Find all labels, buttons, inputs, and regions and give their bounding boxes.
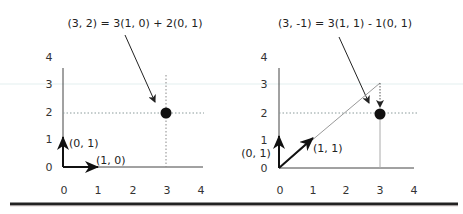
right-y-tick-4: 4 <box>261 51 268 64</box>
left-point-3-2 <box>161 108 172 119</box>
left-vector-0-1-label: (0, 1) <box>69 137 99 150</box>
left-y-tick-0: 0 <box>46 161 53 174</box>
right-annotation-arrow <box>339 37 369 103</box>
right-y-tick-1: 1 <box>261 134 268 147</box>
left-y-tick-1: 1 <box>46 133 53 146</box>
bottom-rule <box>10 203 458 206</box>
left-x-tick-3: 3 <box>164 184 171 197</box>
right-y-tick-3: 3 <box>261 78 268 91</box>
right-x-tick-4: 4 <box>411 184 418 197</box>
diagram: (3, 2) = 3(1, 0) + 2(0, 1) 0 1 2 3 4 0 1… <box>0 0 463 214</box>
left-x-tick-4: 4 <box>198 184 205 197</box>
right-vector-0-1-label: (0, 1) <box>241 147 271 160</box>
right-panel-title: (3, -1) = 3(1, 1) - 1(0, 1) <box>278 17 412 30</box>
right-vector-1-1-label: (1, 1) <box>313 142 343 155</box>
right-x-tick-0: 0 <box>277 184 284 197</box>
left-panel: (3, 2) = 3(1, 0) + 2(0, 1) 0 1 2 3 4 0 1… <box>46 17 205 197</box>
right-vector-1-1 <box>279 138 313 168</box>
left-x-tick-2: 2 <box>130 184 137 197</box>
left-y-tick-4: 4 <box>46 51 53 64</box>
left-x-tick-1: 1 <box>95 184 102 197</box>
left-y-tick-2: 2 <box>46 106 53 119</box>
left-y-tick-3: 3 <box>46 78 53 91</box>
right-point <box>375 109 386 120</box>
right-y-tick-2: 2 <box>261 107 268 120</box>
right-x-tick-3: 3 <box>377 184 384 197</box>
right-y-tick-0: 0 <box>261 162 268 175</box>
left-panel-title: (3, 2) = 3(1, 0) + 2(0, 1) <box>67 17 202 30</box>
right-x-tick-1: 1 <box>310 184 317 197</box>
right-x-tick-2: 2 <box>343 184 350 197</box>
left-vector-1-0-label: (1, 0) <box>96 154 126 167</box>
left-annotation-arrow <box>125 35 155 102</box>
right-panel: (3, -1) = 3(1, 1) - 1(0, 1) 0 1 2 3 4 0 … <box>241 17 418 197</box>
left-x-tick-0: 0 <box>61 184 68 197</box>
